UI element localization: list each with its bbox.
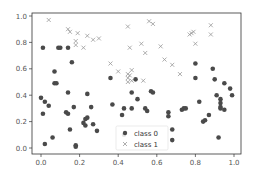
point-class-0 [66,45,71,50]
point-class-1 [151,22,155,26]
point-class-1 [143,51,147,55]
scatter-chart: 0.00.20.40.60.81.0 0.00.20.40.60.81.0 cl… [0,0,255,175]
point-class-0 [145,109,150,114]
point-class-0 [218,101,223,106]
point-class-0 [52,69,57,74]
point-class-1 [209,23,213,27]
legend-label-class-1: class 1 [134,141,158,149]
point-class-0 [197,100,202,105]
point-class-1 [74,43,78,47]
x-tick-label: 0.4 [113,159,125,167]
point-class-1 [116,69,120,73]
point-class-1 [130,79,134,83]
y-tick-label: 0.8 [16,39,27,47]
point-class-1 [126,80,130,84]
x-tick-label: 1.0 [228,159,239,167]
point-class-0 [41,45,46,50]
point-class-0 [43,142,48,147]
point-class-0 [183,106,188,111]
point-class-1 [163,58,167,62]
point-class-0 [212,77,217,82]
point-class-0 [133,77,138,82]
point-class-0 [230,93,235,98]
x-tick-label: 0.6 [151,159,163,167]
point-class-0 [122,106,127,111]
y-tick-label: 0.6 [16,65,28,73]
point-class-0 [210,67,215,72]
point-class-1 [209,32,213,36]
point-class-0 [41,111,46,116]
point-class-1 [126,25,130,29]
point-class-1 [76,31,80,35]
point-class-0 [216,135,221,140]
x-tick-label: 0.8 [190,159,201,167]
point-class-1 [147,19,151,23]
y-axis-ticks: 0.00.20.40.60.81.0 [16,13,32,153]
legend-marker-circle-icon [123,131,127,135]
point-class-1 [108,62,112,66]
point-class-0 [218,106,223,111]
x-tick-label: 0.2 [74,159,85,167]
point-class-0 [83,123,88,128]
x-axis-ticks: 0.00.20.40.60.81.0 [35,154,239,167]
point-class-0 [222,81,227,86]
point-class-1 [139,42,143,46]
legend: class 0 class 1 [116,126,168,150]
point-class-0 [170,127,175,132]
point-class-0 [170,138,175,143]
y-tick-label: 0.0 [16,145,27,153]
point-class-1 [68,30,72,34]
point-class-1 [66,27,70,31]
point-class-1 [47,18,51,22]
point-class-0 [129,106,134,111]
point-class-1 [191,30,195,34]
point-class-1 [85,34,89,38]
point-class-0 [193,61,198,66]
point-class-0 [89,105,94,110]
point-class-0 [203,118,208,123]
point-class-1 [159,44,163,48]
y-tick-label: 0.2 [16,118,27,126]
point-class-1 [170,63,174,67]
point-class-0 [166,110,171,115]
point-class-0 [72,105,77,110]
y-tick-label: 1.0 [16,13,27,21]
point-class-0 [58,45,63,50]
point-class-0 [193,76,198,81]
point-class-0 [70,60,75,65]
point-class-0 [91,122,96,127]
point-class-0 [95,129,100,134]
point-class-0 [46,103,51,108]
point-class-0 [166,114,171,119]
point-class-0 [85,115,90,120]
point-class-0 [214,93,219,98]
point-class-0 [135,97,140,102]
point-class-1 [126,76,130,80]
point-class-0 [110,102,115,107]
point-class-1 [91,38,95,42]
point-class-1 [81,46,85,50]
legend-label-class-0: class 0 [134,130,158,138]
point-class-0 [85,92,90,97]
point-class-1 [74,39,78,43]
point-class-0 [50,135,55,140]
point-class-0 [39,96,44,101]
point-class-0 [120,113,125,118]
y-tick-label: 0.4 [16,92,28,100]
point-class-0 [73,144,78,149]
point-class-0 [151,90,156,95]
x-tick-label: 0.0 [35,159,46,167]
point-class-1 [130,68,134,72]
point-class-0 [108,76,113,81]
point-class-0 [66,111,71,116]
point-class-1 [141,79,145,83]
point-class-0 [218,97,223,102]
point-class-1 [193,42,197,46]
point-class-1 [128,73,132,77]
point-class-0 [68,127,73,132]
point-class-0 [43,100,48,105]
point-class-0 [228,86,233,91]
point-class-0 [54,81,59,86]
point-class-0 [207,113,212,118]
point-class-1 [128,46,132,50]
